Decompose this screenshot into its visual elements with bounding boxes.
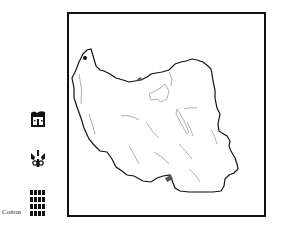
city-marker — [83, 56, 87, 60]
face-icon — [31, 150, 45, 167]
iran-map — [69, 14, 264, 215]
house-icon — [31, 110, 45, 127]
legend-label-cotton: Cotton — [2, 208, 21, 216]
map-frame — [67, 12, 266, 217]
grid-icon — [30, 190, 45, 217]
country-border — [72, 49, 238, 192]
